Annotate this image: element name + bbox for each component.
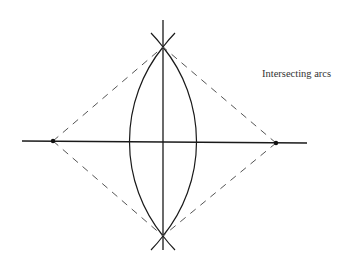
dashed-line-right-bottom (163, 143, 276, 236)
right-endpoint-dot (274, 141, 278, 145)
dashed-line-left-top (53, 47, 163, 141)
left-endpoint-dot (51, 139, 55, 143)
dashed-line-left-bottom (53, 141, 163, 236)
horizontal-line (22, 141, 307, 143)
perpendicular-bisector-diagram (0, 0, 352, 267)
dashed-line-right-top (163, 47, 276, 143)
intersecting-arcs-label: Intersecting arcs (262, 68, 331, 79)
